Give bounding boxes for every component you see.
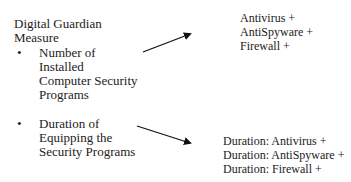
- arrow-icon: [137, 126, 190, 143]
- arrows: [0, 0, 351, 182]
- arrow-icon: [143, 34, 190, 52]
